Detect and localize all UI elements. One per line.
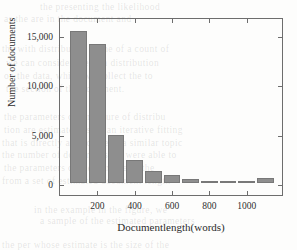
- bar: [89, 44, 105, 183]
- x-tick-mark: [97, 191, 98, 195]
- bar: [108, 135, 124, 183]
- x-tick-label: 1000: [237, 201, 256, 211]
- x-tick-mark-top: [247, 19, 248, 23]
- x-axis-title: Documentlength(words): [59, 221, 283, 233]
- bar: [220, 181, 236, 184]
- bleed-text-line: the per whose estimate is the size of th…: [2, 240, 169, 250]
- y-tick-mark-right: [278, 136, 282, 137]
- y-tick-label: 5,000: [32, 131, 53, 141]
- y-axis-title: Number of documents: [6, 18, 17, 107]
- bar: [70, 31, 86, 183]
- y-tick-label: 0: [48, 180, 53, 190]
- y-tick-mark-right: [278, 185, 282, 186]
- y-tick-mark: [60, 86, 64, 87]
- x-tick-label: 800: [202, 201, 216, 211]
- y-tick-mark-right: [278, 37, 282, 38]
- x-tick-label: 600: [165, 201, 179, 211]
- bar: [201, 181, 217, 184]
- y-tick-mark: [60, 136, 64, 137]
- x-tick-mark-top: [97, 19, 98, 23]
- bar: [257, 178, 273, 183]
- x-tick-mark-top: [135, 19, 136, 23]
- x-tick-mark: [135, 191, 136, 195]
- x-tick-mark-top: [172, 19, 173, 23]
- y-tick-mark: [60, 37, 64, 38]
- x-tick-mark: [209, 191, 210, 195]
- x-tick-label: 400: [128, 201, 142, 211]
- figure-canvas: the presenting the likelihoodas the are …: [0, 0, 297, 250]
- y-tick-mark-right: [278, 86, 282, 87]
- y-tick-label: 15,000: [27, 32, 53, 42]
- bar: [126, 160, 142, 183]
- x-tick-mark: [172, 191, 173, 195]
- bleed-text-line: the presenting the likelihood: [40, 2, 160, 12]
- bar: [238, 181, 254, 184]
- x-tick-label: 200: [90, 201, 104, 211]
- bar: [164, 175, 180, 183]
- plot-frame: 05,00010,00015,000 2004006008001000: [59, 18, 283, 196]
- plot-area: 05,00010,00015,000 2004006008001000: [60, 19, 282, 195]
- bar: [145, 171, 161, 183]
- y-tick-mark: [60, 185, 64, 186]
- y-tick-label: 10,000: [27, 81, 53, 91]
- bar: [182, 179, 198, 183]
- x-tick-mark-top: [209, 19, 210, 23]
- x-tick-mark: [247, 191, 248, 195]
